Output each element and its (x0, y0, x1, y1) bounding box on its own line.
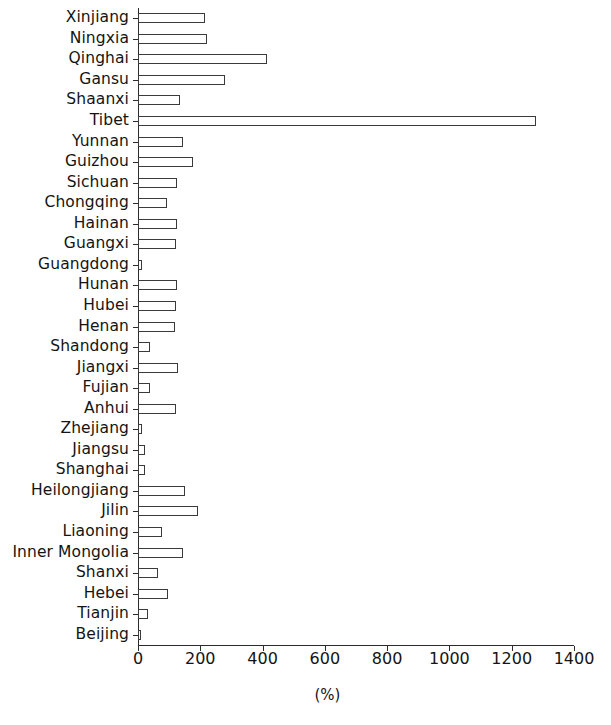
bar (138, 13, 205, 23)
x-axis-line (138, 645, 574, 646)
category-label: Tibet (90, 112, 129, 128)
bar (138, 589, 168, 599)
bar (138, 527, 162, 537)
category-label: Hubei (83, 297, 129, 313)
bar (138, 198, 167, 208)
bar (138, 363, 178, 373)
bar (138, 568, 158, 578)
bar (138, 239, 176, 249)
category-label: Jilin (101, 502, 129, 518)
x-axis-tick-label: 600 (310, 650, 341, 668)
bar (138, 75, 225, 85)
bar-chart: XinjiangNingxiaQinghaiGansuShaanxiTibetY… (0, 0, 611, 725)
category-label: Anhui (84, 400, 129, 416)
bar (138, 322, 175, 332)
category-axis-labels: XinjiangNingxiaQinghaiGansuShaanxiTibetY… (0, 0, 134, 650)
bar (138, 630, 141, 640)
bar (138, 342, 150, 352)
category-label: Henan (78, 318, 129, 334)
bar (138, 465, 145, 475)
bar (138, 116, 536, 126)
x-axis-tick-labels: 0200400600800100012001400 (0, 650, 611, 680)
category-label: Jiangsu (72, 441, 129, 457)
category-label: Ningxia (70, 30, 129, 46)
bar (138, 424, 142, 434)
category-label: Qinghai (69, 50, 130, 66)
x-axis-tick-label: 200 (185, 650, 216, 668)
category-label: Shandong (50, 338, 129, 354)
bar (138, 260, 142, 270)
bar (138, 404, 176, 414)
category-label: Liaoning (62, 523, 129, 539)
category-label: Tianjin (77, 605, 129, 621)
category-label: Chongqing (44, 194, 129, 210)
bar (138, 506, 198, 516)
category-label: Shanghai (56, 461, 129, 477)
x-axis-tick-label: 1200 (491, 650, 532, 668)
bar (138, 280, 177, 290)
category-label: Beijing (76, 626, 129, 642)
bar (138, 301, 176, 311)
bar (138, 157, 193, 167)
category-label: Guangdong (38, 256, 129, 272)
bar (138, 445, 145, 455)
x-axis-tick-label: 0 (133, 650, 143, 668)
category-label: Sichuan (67, 174, 129, 190)
category-label: Xinjiang (66, 9, 129, 25)
category-label: Hebei (84, 585, 129, 601)
bar (138, 137, 183, 147)
category-label: Gansu (79, 71, 129, 87)
bar (138, 383, 150, 393)
category-label: Inner Mongolia (12, 544, 129, 560)
category-label: Guangxi (64, 235, 129, 251)
x-axis-tick-label: 800 (372, 650, 403, 668)
bar (138, 548, 183, 558)
category-label: Shanxi (76, 564, 129, 580)
bar (138, 178, 177, 188)
category-label: Jiangxi (77, 359, 129, 375)
bar (138, 95, 180, 105)
x-axis-tick-label: 400 (247, 650, 278, 668)
x-axis-tick-label: 1000 (429, 650, 470, 668)
x-axis-unit-label: (%) (0, 686, 611, 704)
category-label: Guizhou (65, 153, 129, 169)
plot-area (138, 8, 574, 645)
category-label: Shaanxi (66, 91, 129, 107)
bar (138, 609, 148, 619)
category-label: Heilongjiang (31, 482, 129, 498)
category-label: Fujian (83, 379, 129, 395)
bar (138, 34, 207, 44)
x-axis-tick-label: 1400 (554, 650, 595, 668)
category-label: Hainan (74, 215, 129, 231)
bar (138, 486, 185, 496)
category-label: Yunnan (72, 133, 129, 149)
category-label: Zhejiang (60, 420, 129, 436)
bar (138, 219, 177, 229)
x-axis-unit-text: (%) (315, 686, 341, 704)
bar (138, 54, 267, 64)
category-label: Hunan (78, 276, 129, 292)
